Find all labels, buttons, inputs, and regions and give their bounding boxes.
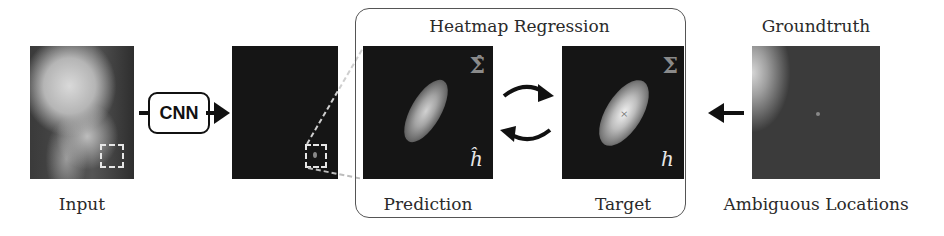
arrow-right-icon bbox=[206, 100, 230, 126]
arrow-left-icon bbox=[708, 102, 744, 124]
heatmap-regression-title: Heatmap Regression bbox=[355, 16, 684, 36]
cycle-arrows-icon bbox=[498, 78, 556, 148]
ambiguous-locations-label: Ambiguous Locations bbox=[716, 194, 916, 214]
prediction-label: Prediction bbox=[363, 194, 493, 214]
prediction-heatmap: Σ̂ ĥ bbox=[363, 46, 493, 179]
target-heatmap: × Σ h bbox=[562, 46, 684, 179]
input-label: Input bbox=[30, 194, 134, 214]
h-symbol: h bbox=[661, 147, 674, 171]
sigma-symbol: Σ bbox=[662, 52, 678, 78]
groundtruth-landmark bbox=[816, 112, 820, 116]
input-xray-image bbox=[30, 46, 134, 179]
groundtruth-image bbox=[752, 46, 880, 179]
h-hat-symbol: ĥ bbox=[470, 147, 483, 171]
cnn-block: CNN bbox=[148, 92, 210, 134]
prediction-gaussian-blob bbox=[396, 73, 457, 149]
groundtruth-title: Groundtruth bbox=[752, 16, 880, 36]
input-roi-box bbox=[100, 144, 124, 168]
sigma-hat-symbol: Σ̂ bbox=[469, 52, 485, 78]
target-center-mark: × bbox=[620, 108, 628, 119]
target-label: Target bbox=[562, 194, 684, 214]
cnn-label: CNN bbox=[160, 103, 199, 124]
